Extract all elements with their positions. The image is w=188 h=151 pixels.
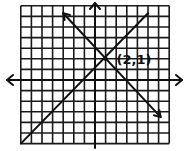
axes [7, 3, 182, 148]
intersection-point [103, 57, 107, 61]
intersection-label: (2,1) [117, 52, 152, 67]
coordinate-graph: (2,1) [0, 0, 188, 151]
